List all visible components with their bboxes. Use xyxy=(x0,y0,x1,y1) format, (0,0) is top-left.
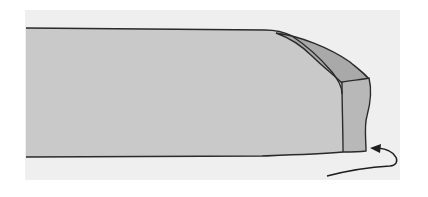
folded-strip-diagram xyxy=(0,0,428,197)
arrow-head-icon xyxy=(370,144,381,153)
folded-end-face xyxy=(342,78,370,152)
strip-body xyxy=(26,28,344,157)
